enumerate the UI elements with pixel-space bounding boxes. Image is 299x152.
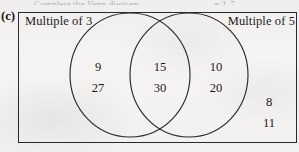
set-label-multiple-of-5: Multiple of 5 — [228, 14, 295, 28]
region-value: 30 — [138, 78, 182, 99]
set-label-multiple-of-3: Multiple of 3 — [25, 14, 92, 28]
region-value: 10 — [196, 57, 236, 78]
worksheet-page-fragment: Complete the Venn diagram = 2, 7 (c) Mul… — [0, 0, 299, 152]
region-value: 27 — [78, 78, 118, 99]
region-value: 20 — [196, 78, 236, 99]
region-multiple-of-3-and-5: 15 30 — [138, 57, 182, 99]
region-value: 11 — [253, 113, 285, 134]
region-value: 9 — [78, 57, 118, 78]
region-value: 8 — [253, 92, 285, 113]
region-multiple-of-5-only: 10 20 — [196, 57, 236, 99]
region-multiple-of-3-only: 9 27 — [78, 57, 118, 99]
region-neither: 8 11 — [253, 92, 285, 134]
region-value: 15 — [138, 57, 182, 78]
